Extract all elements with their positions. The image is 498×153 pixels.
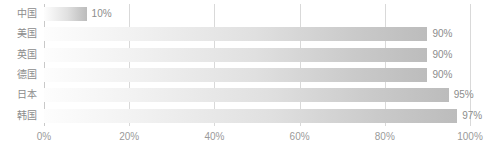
x-tick-label: 60% [290,131,310,142]
bar-row[interactable]: 韩国97% [44,106,470,126]
bar-row[interactable]: 中国10% [44,4,470,24]
bar-row[interactable]: 日本95% [44,85,470,105]
bar-value-label: 90% [432,45,452,65]
bar-value-label: 97% [462,106,482,126]
category-label: 日本 [17,85,37,105]
bar-row[interactable]: 德国90% [44,65,470,85]
bar[interactable] [44,88,449,102]
bar[interactable] [44,7,87,21]
x-tick-label: 20% [119,131,139,142]
bar-row[interactable]: 美国90% [44,24,470,44]
bar-value-label: 90% [432,24,452,44]
bar-value-label: 10% [92,4,112,24]
bar[interactable] [44,48,427,62]
horizontal-bar-chart: 中国10%美国90%英国90%德国90%日本95%韩国97% 0%20%40%6… [0,0,498,153]
plot-area: 中国10%美国90%英国90%德国90%日本95%韩国97% [44,4,470,126]
bar-value-label: 90% [432,65,452,85]
bar-rows: 中国10%美国90%英国90%德国90%日本95%韩国97% [44,4,470,126]
category-label: 英国 [17,45,37,65]
bar-value-label: 95% [454,85,474,105]
bar[interactable] [44,27,427,41]
category-label: 中国 [17,4,37,24]
x-tick-label: 100% [457,131,483,142]
bar-row[interactable]: 英国90% [44,45,470,65]
x-tick-label: 40% [204,131,224,142]
bar[interactable] [44,109,457,123]
x-tick-label: 0% [37,131,51,142]
category-label: 德国 [17,65,37,85]
bar[interactable] [44,68,427,82]
category-label: 韩国 [17,106,37,126]
category-label: 美国 [17,24,37,44]
x-tick-label: 80% [375,131,395,142]
